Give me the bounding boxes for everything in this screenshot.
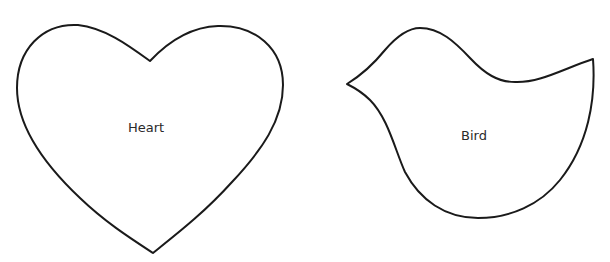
heart-shape: [17, 25, 283, 253]
heart-label: Heart: [128, 120, 164, 135]
bird-shape: [347, 28, 594, 218]
bird-label: Bird: [461, 128, 487, 143]
shapes-canvas: [0, 0, 610, 262]
